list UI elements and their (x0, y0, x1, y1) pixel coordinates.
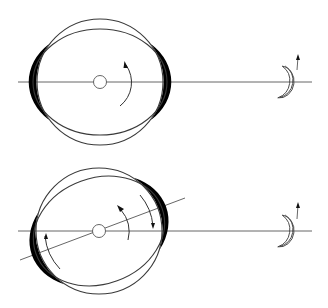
torque-arrowhead-left-icon (44, 233, 48, 239)
rotation-arrow (120, 65, 132, 106)
rotation-arrow (121, 210, 129, 240)
figure-aligned (18, 19, 312, 145)
moon-icon (278, 54, 300, 100)
planet-core (93, 225, 106, 238)
rotation-arrowhead-icon (117, 205, 124, 212)
tidal-bulge-diagram (0, 0, 328, 308)
figure-offset (14, 157, 312, 305)
moon-icon (278, 202, 300, 249)
tidal-bulge-right (134, 171, 179, 249)
torque-arrow-left (45, 236, 60, 269)
torque-arrowhead-right-icon (151, 223, 155, 229)
rotation-arrowhead-icon (124, 61, 129, 68)
planet-core (94, 76, 107, 89)
